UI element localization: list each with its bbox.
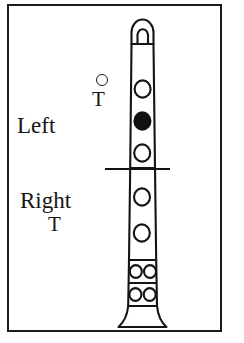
bell-outline [119, 306, 167, 327]
key-hole-8-open [129, 288, 141, 301]
tone-hole-3-open [134, 144, 150, 161]
key-hole-9-open [144, 288, 156, 301]
lower-joint-body [129, 168, 156, 260]
mouthpiece-outline [132, 20, 154, 45]
key-hole-6-open [130, 265, 142, 278]
right-hand-label: Right [20, 189, 71, 212]
key-hole-7-open [144, 265, 156, 278]
right-thumb-label: T [48, 214, 61, 235]
tone-hole-2-closed [134, 112, 150, 129]
tone-hole-5-open [134, 224, 150, 241]
mouthpiece-inner-arch [138, 29, 149, 44]
tone-hole-4-open [134, 188, 150, 205]
fingering-chart-frame: Left T Right T [7, 4, 222, 332]
left-thumb-hole-icon [96, 74, 108, 86]
left-thumb-label: T [92, 89, 105, 110]
tone-hole-1-open [135, 80, 151, 97]
left-hand-label: Left [17, 114, 55, 137]
clarinet-illustration [117, 20, 169, 330]
